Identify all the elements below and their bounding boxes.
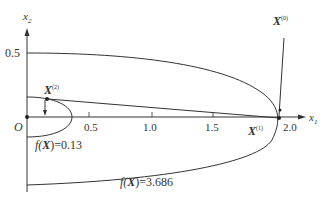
point-x2 (45, 97, 49, 101)
arrow-down-icon (43, 110, 47, 116)
axes (27, 33, 300, 192)
y-tick-label-0.5: 0.5 (5, 46, 20, 60)
x-axis-arrow-icon (298, 115, 306, 120)
contour-diagram: x2 x1 O 0.5 0.5 1.0 1.5 2.0 X(0) X(1) X(… (0, 0, 324, 202)
point-x1 (277, 116, 281, 120)
path-x1-x2 (48, 99, 279, 118)
x-ticks (89, 112, 213, 117)
x-tick-label-2.0: 2.0 (283, 121, 297, 133)
label-x1: X(1) (247, 124, 263, 138)
x-tick-label-0.5: 0.5 (84, 121, 98, 133)
outer-contour (27, 53, 278, 185)
x-tick-label-1.5: 1.5 (205, 121, 219, 133)
path-x0-x1 (279, 38, 284, 116)
point-x0-marker (279, 109, 282, 112)
y-axis-label: x2 (22, 10, 32, 25)
outer-contour-label: f(X)=3.686 (120, 175, 173, 189)
y-axis-arrow-icon (25, 28, 30, 36)
x-axis-label: x1 (308, 111, 317, 126)
label-x2: X(2) (43, 83, 59, 97)
inner-contour-label: f(X)=0.13 (35, 138, 82, 152)
label-x0: X(0) (272, 14, 288, 28)
x-tick-label-1.0: 1.0 (143, 121, 157, 133)
origin-label: O (14, 120, 23, 134)
origin-point (25, 115, 29, 119)
